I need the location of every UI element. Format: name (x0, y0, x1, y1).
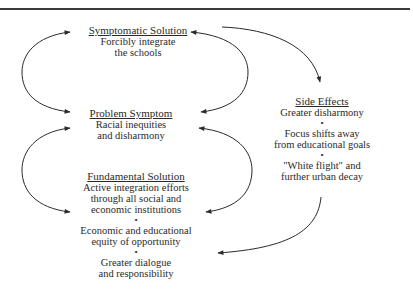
fundamental-solution-title: Fundamental Solution (72, 170, 200, 182)
fundamental-solution-item: and responsibility (72, 268, 200, 279)
arrow-right-lower-loop (199, 128, 252, 212)
problem-symptom-node: Problem Symptom Racial inequities and di… (72, 107, 190, 141)
fundamental-solution-item: equity of opportunity (72, 236, 200, 247)
bullet-separator: • (72, 215, 200, 225)
bullet-separator: • (258, 150, 386, 160)
side-effect-item: Focus shifts away (258, 128, 386, 139)
side-effects-title: Side Effects (258, 95, 386, 107)
side-effect-item: "White flight" and (258, 160, 386, 171)
bullet-separator: • (72, 247, 200, 257)
fundamental-solution-item: Economic and educational (72, 225, 200, 236)
side-effect-item: further urban decay (258, 171, 386, 182)
bullet-separator: • (258, 118, 386, 128)
arrow-right-upper-loop (191, 32, 248, 112)
symptomatic-solution-title: Symptomatic Solution (78, 24, 198, 36)
fundamental-solution-item: economic institutions (72, 204, 200, 215)
fundamental-solution-node: Fundamental Solution Active integration … (72, 170, 200, 279)
side-effect-item: Greater disharmony (258, 107, 386, 118)
problem-symptom-line: Racial inequities (72, 119, 190, 130)
symptomatic-solution-line: Forcibly integrate (78, 36, 198, 47)
problem-symptom-line: and disharmony (72, 130, 190, 141)
arrow-side-effects-to-fundamental (218, 197, 321, 253)
symptomatic-solution-line: the schools (78, 47, 198, 58)
arrow-to-side-effects (222, 27, 320, 82)
fundamental-solution-item: through all social and (72, 193, 200, 204)
side-effect-item: from educational goals (258, 139, 386, 150)
symptomatic-solution-node: Symptomatic Solution Forcibly integrate … (78, 24, 198, 58)
arrow-left-lower-loop (22, 128, 70, 212)
side-effects-node: Side Effects Greater disharmony • Focus … (258, 95, 386, 182)
fundamental-solution-item: Active integration efforts (72, 182, 200, 193)
problem-symptom-title: Problem Symptom (72, 107, 190, 119)
arrow-left-upper-loop (22, 32, 70, 112)
fundamental-solution-item: Greater dialogue (72, 257, 200, 268)
